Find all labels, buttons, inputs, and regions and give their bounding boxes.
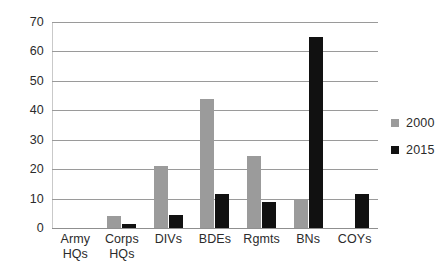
chart-legend: 20002015	[391, 113, 445, 167]
y-tick-label: 10	[8, 192, 44, 205]
x-tick-label: ArmyHQs	[52, 232, 99, 262]
x-axis-category-labels: ArmyHQsCorpsHQsDIVsBDEsRgmtsBNsCOYs	[52, 232, 378, 272]
y-axis: 010203040506070	[8, 0, 44, 272]
legend-swatch-icon	[391, 146, 399, 154]
x-tick-label-line1: Corps	[105, 232, 139, 246]
bar-group	[192, 22, 239, 228]
x-tick-label-line1: BNs	[296, 232, 320, 246]
bar-group	[285, 22, 332, 228]
x-tick-label-line1: BDEs	[199, 232, 231, 246]
x-tick-label-line1: Army	[60, 232, 90, 246]
legend-item-2000[interactable]: 2000	[391, 113, 445, 133]
x-tick-label-line1: COYs	[338, 232, 372, 246]
bar-2015	[309, 37, 323, 228]
x-tick-label-line2: HQs	[99, 247, 146, 262]
bar-2015	[169, 215, 183, 228]
bar-group	[52, 22, 99, 228]
x-tick-label-line1: Rgmts	[243, 232, 280, 246]
x-tick-label: COYs	[331, 232, 378, 247]
bar-2000	[247, 156, 261, 228]
x-tick-label-line1: DIVs	[155, 232, 183, 246]
x-tick-label: BDEs	[192, 232, 239, 247]
bar-2000	[200, 99, 214, 228]
bar-chart: 010203040506070 ArmyHQsCorpsHQsDIVsBDEsR…	[0, 0, 445, 272]
plot-area	[52, 22, 378, 228]
x-tick-label: CorpsHQs	[99, 232, 146, 262]
bar-2015	[122, 224, 136, 228]
x-tick-label: DIVs	[145, 232, 192, 247]
y-tick-label: 50	[8, 75, 44, 88]
legend-swatch-icon	[391, 119, 399, 127]
bar-2015	[215, 194, 229, 228]
bar-group	[99, 22, 146, 228]
bar-2000	[154, 166, 168, 228]
y-tick-label: 0	[8, 222, 44, 235]
y-tick-label: 60	[8, 45, 44, 58]
bar-2000	[107, 216, 121, 228]
legend-label: 2000	[406, 117, 435, 130]
bar-2000	[294, 200, 308, 228]
y-tick-label: 20	[8, 163, 44, 176]
y-tick-label: 40	[8, 104, 44, 117]
legend-label: 2015	[406, 144, 435, 157]
bar-2015	[262, 202, 276, 228]
legend-item-2015[interactable]: 2015	[391, 140, 445, 160]
y-tick-label: 30	[8, 133, 44, 146]
bar-2015	[355, 194, 369, 228]
gridline-0	[52, 228, 378, 229]
x-tick-label-line2: HQs	[52, 247, 99, 262]
bar-group	[331, 22, 378, 228]
bar-group	[145, 22, 192, 228]
bar-group	[238, 22, 285, 228]
y-tick-label: 70	[8, 16, 44, 29]
x-tick-label: BNs	[285, 232, 332, 247]
x-tick-label: Rgmts	[238, 232, 285, 247]
